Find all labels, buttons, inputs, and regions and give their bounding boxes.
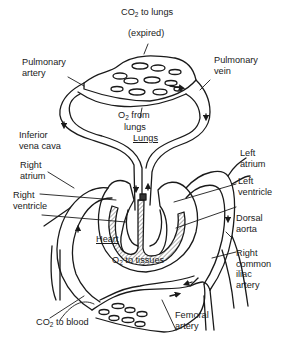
label-left-atrium: Left atrium xyxy=(240,148,266,169)
pulmonary-vein-inner xyxy=(146,94,200,168)
label-pulmonary-artery: Pulmonary artery xyxy=(22,57,66,78)
label-right-atrium: Right atrium xyxy=(20,160,46,181)
label-o2-from-lungs: O2 from xyxy=(118,110,150,121)
circulatory-diagram: CO2 to lungs (expired) Pulmonary artery … xyxy=(0,0,287,346)
label-lungs-text: lungs xyxy=(124,122,146,133)
label-right-ventricle: Right ventricle xyxy=(13,190,47,211)
label-expired: (expired) xyxy=(128,28,164,39)
label-co2-to-lungs: CO2 to lungs xyxy=(121,7,173,18)
label-lungs: Lungs xyxy=(133,133,158,144)
lung-capillary-bed xyxy=(78,56,196,107)
label-co2-to-blood: CO2 to blood xyxy=(36,317,89,328)
dorsal-aorta-inner xyxy=(186,185,225,284)
label-inferior-vena-cava: Inferior vena cava xyxy=(19,130,61,151)
label-femoral-artery: Femoral artery xyxy=(175,310,209,331)
vena-cava-inner xyxy=(73,198,112,302)
label-right-common-iliac-artery: Right common iliac artery xyxy=(236,248,271,290)
label-dorsal-aorta: Dorsal aorta xyxy=(236,213,263,234)
label-left-ventricle: Left ventricle xyxy=(238,176,272,197)
leader-lines xyxy=(40,44,236,330)
label-heart: Heart xyxy=(96,234,118,245)
label-pulmonary-vein: Pulmonary vein xyxy=(214,55,258,76)
label-o2-to-tissues: O2 to tissues xyxy=(112,255,164,266)
